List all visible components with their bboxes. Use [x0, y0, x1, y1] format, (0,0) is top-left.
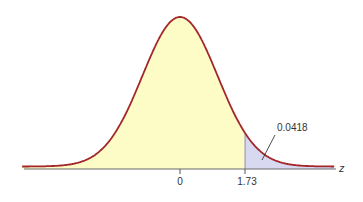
axis-label-z: z — [338, 162, 345, 174]
area-annotation: 0.0418 — [277, 122, 308, 133]
body-area — [22, 17, 245, 169]
normal-distribution-chart: 0 1.73 z 0.0418 — [0, 0, 363, 202]
tick-label-0: 0 — [177, 176, 183, 187]
tick-label-1-73: 1.73 — [237, 176, 257, 187]
